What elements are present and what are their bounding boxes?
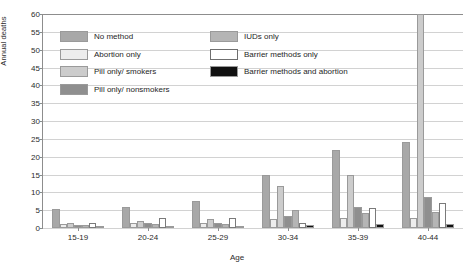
bar xyxy=(376,224,383,228)
bar xyxy=(130,223,137,228)
y-axis-title: Annual deaths xyxy=(0,0,8,96)
bar xyxy=(262,175,269,228)
y-tick-label: 5 xyxy=(36,206,40,215)
bar xyxy=(347,175,354,229)
bar xyxy=(277,186,284,228)
bar xyxy=(67,223,74,228)
y-tick-label: 20 xyxy=(31,152,40,161)
x-tick-mark xyxy=(428,228,429,231)
legend-item: Pill only/ smokers xyxy=(60,66,210,77)
bar-chart: Annual deaths 051015202530354045505560 1… xyxy=(0,0,474,270)
legend-label: Abortion only xyxy=(94,50,141,59)
legend-item: Barrier methods only xyxy=(210,49,400,60)
y-tick-label: 0 xyxy=(36,224,40,233)
bar xyxy=(96,226,103,228)
x-tick-mark xyxy=(148,228,149,231)
legend-label: Barrier methods only xyxy=(244,50,318,59)
bar xyxy=(402,142,409,228)
bar-set xyxy=(393,14,463,228)
bar xyxy=(192,201,199,228)
bar xyxy=(362,213,369,228)
legend-swatch xyxy=(60,49,88,60)
y-tick-label: 35 xyxy=(31,99,40,108)
bar xyxy=(52,209,59,228)
y-tick-label: 60 xyxy=(31,10,40,19)
bar xyxy=(369,208,376,228)
bar xyxy=(222,224,229,228)
x-tick-label: 35-39 xyxy=(348,233,368,242)
bar xyxy=(60,224,67,228)
x-axis-title: Age xyxy=(0,253,474,262)
x-tick-label: 25-29 xyxy=(208,233,228,242)
legend-label: Barrier methods and abortion xyxy=(244,67,348,76)
legend-swatch xyxy=(60,31,88,42)
bar xyxy=(417,14,424,228)
legend: No methodIUDs onlyAbortion onlyBarrier m… xyxy=(60,28,400,98)
bar xyxy=(82,225,89,228)
x-tick-label: 30-34 xyxy=(278,233,298,242)
bar xyxy=(446,224,453,228)
legend-item: IUDs only xyxy=(210,31,400,42)
legend-item: Pill only/ nonsmokers xyxy=(60,84,210,95)
bar xyxy=(292,210,299,228)
bar xyxy=(229,218,236,228)
x-tick-label: 15-19 xyxy=(68,233,88,242)
legend-item: Abortion only xyxy=(60,49,210,60)
bar xyxy=(122,207,129,228)
legend-label: No method xyxy=(94,32,133,41)
x-tick-mark xyxy=(358,228,359,231)
legend-swatch xyxy=(60,84,88,95)
x-tick-mark xyxy=(288,228,289,231)
x-tick-mark xyxy=(218,228,219,231)
y-tick-label: 10 xyxy=(31,188,40,197)
legend-item: No method xyxy=(60,31,210,42)
bar xyxy=(236,226,243,228)
legend-swatch xyxy=(210,31,238,42)
bar xyxy=(354,207,361,228)
y-tick-label: 45 xyxy=(31,63,40,72)
x-tick-label: 20-24 xyxy=(138,233,158,242)
bar xyxy=(207,219,214,228)
bar xyxy=(340,218,347,228)
bar xyxy=(306,225,313,228)
bar xyxy=(432,212,439,228)
legend-swatch xyxy=(210,66,238,77)
bar xyxy=(332,150,339,228)
bar xyxy=(284,216,291,228)
y-tick-label: 25 xyxy=(31,134,40,143)
y-tick-label: 15 xyxy=(31,170,40,179)
bar xyxy=(270,219,277,228)
bar xyxy=(299,223,306,228)
bar xyxy=(200,223,207,228)
bar xyxy=(137,221,144,228)
y-tick-label: 55 xyxy=(31,27,40,36)
x-tick-label: 40-44 xyxy=(418,233,438,242)
bar xyxy=(439,203,446,228)
legend-label: Pill only/ nonsmokers xyxy=(94,85,170,94)
y-tick-label: 50 xyxy=(31,45,40,54)
bar xyxy=(424,197,431,228)
legend-label: Pill only/ smokers xyxy=(94,67,156,76)
y-tick-label: 40 xyxy=(31,81,40,90)
y-tick-mark xyxy=(40,228,43,229)
bar xyxy=(159,218,166,228)
y-tick-label: 30 xyxy=(31,117,40,126)
gridline xyxy=(43,228,463,229)
x-tick-mark xyxy=(78,228,79,231)
bar xyxy=(89,223,96,228)
legend-swatch xyxy=(60,66,88,77)
bar xyxy=(152,224,159,228)
legend-swatch xyxy=(210,49,238,60)
bar xyxy=(166,226,173,228)
bar xyxy=(410,218,417,228)
bar-group: 40-44 xyxy=(393,14,463,228)
legend-label: IUDs only xyxy=(244,32,279,41)
legend-item: Barrier methods and abortion xyxy=(210,66,400,77)
